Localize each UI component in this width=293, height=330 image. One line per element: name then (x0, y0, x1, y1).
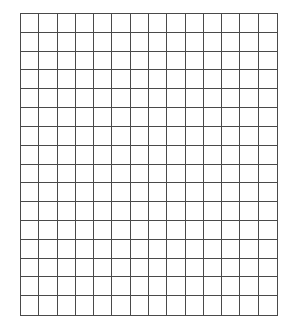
grid-cell (94, 127, 112, 146)
grid-cell (186, 240, 204, 259)
grid-cell (222, 14, 240, 33)
grid-cell (240, 221, 258, 240)
grid-cell (76, 240, 94, 259)
grid-cell (186, 146, 204, 165)
grid-cell (112, 259, 130, 278)
grid-cell (222, 70, 240, 89)
grid-cell (131, 89, 149, 108)
grid-cell (76, 127, 94, 146)
grid-cell (149, 108, 167, 127)
grid-cell (94, 221, 112, 240)
grid-cell (112, 146, 130, 165)
grid-cell (149, 14, 167, 33)
grid-cell (58, 240, 76, 259)
grid-cell (204, 277, 222, 296)
grid-cell (112, 108, 130, 127)
grid-cell (112, 240, 130, 259)
grid-cell (21, 146, 39, 165)
grid-cell (240, 277, 258, 296)
grid-cell (149, 296, 167, 315)
grid-cell (149, 127, 167, 146)
grid-cell (76, 146, 94, 165)
grid-cell (149, 146, 167, 165)
grid-cell (259, 277, 277, 296)
grid-cell (58, 70, 76, 89)
grid-cell (131, 221, 149, 240)
grid-cell (186, 259, 204, 278)
grid-cell (131, 146, 149, 165)
grid-cell (76, 296, 94, 315)
grid-cell (259, 108, 277, 127)
grid-cell (39, 127, 57, 146)
grid-cell (240, 183, 258, 202)
grid-cell (112, 183, 130, 202)
grid-cell (131, 33, 149, 52)
grid-cell (167, 296, 185, 315)
grid-cell (204, 127, 222, 146)
grid-cell (240, 108, 258, 127)
grid-cell (149, 52, 167, 71)
grid-cell (186, 89, 204, 108)
grid-cell (204, 240, 222, 259)
grid-cell (167, 259, 185, 278)
grid-cell (21, 14, 39, 33)
grid-cell (76, 14, 94, 33)
grid-cell (204, 296, 222, 315)
grid-cell (58, 259, 76, 278)
grid-cell (76, 165, 94, 184)
grid-cell (240, 127, 258, 146)
grid-cell (39, 70, 57, 89)
grid-cell (222, 202, 240, 221)
grid-cell (21, 52, 39, 71)
grid-cell (222, 165, 240, 184)
grid-cell (259, 146, 277, 165)
grid-cell (186, 221, 204, 240)
grid-cell (222, 259, 240, 278)
grid-cell (186, 127, 204, 146)
grid-cell (39, 52, 57, 71)
grid-cell (204, 259, 222, 278)
blank-grid (20, 13, 278, 316)
grid-cell (21, 89, 39, 108)
grid-cell (112, 165, 130, 184)
grid-cell (94, 14, 112, 33)
grid-cell (94, 108, 112, 127)
grid-cell (58, 127, 76, 146)
grid-cell (259, 89, 277, 108)
grid-cell (222, 89, 240, 108)
grid-cell (112, 33, 130, 52)
grid-cell (94, 296, 112, 315)
grid-cell (131, 277, 149, 296)
grid-cell (240, 240, 258, 259)
grid-cell (39, 240, 57, 259)
grid-cell (149, 70, 167, 89)
grid-cell (240, 33, 258, 52)
grid-cell (112, 127, 130, 146)
grid-cell (58, 202, 76, 221)
grid-cell (94, 183, 112, 202)
grid-cell (204, 165, 222, 184)
grid-cell (259, 221, 277, 240)
grid-cell (240, 14, 258, 33)
grid-cell (186, 108, 204, 127)
grid-cell (39, 183, 57, 202)
grid-cell (167, 183, 185, 202)
grid-cell (94, 165, 112, 184)
grid-cell (76, 202, 94, 221)
grid-cell (149, 240, 167, 259)
grid-cell (21, 221, 39, 240)
grid-cell (259, 165, 277, 184)
grid-cell (76, 52, 94, 71)
grid-cell (186, 296, 204, 315)
grid-cell (259, 33, 277, 52)
grid-cell (21, 127, 39, 146)
grid-cell (167, 202, 185, 221)
grid-cell (39, 165, 57, 184)
grid-cell (222, 52, 240, 71)
grid-cell (259, 14, 277, 33)
grid-cell (21, 183, 39, 202)
grid-cell (204, 146, 222, 165)
grid-cell (21, 296, 39, 315)
grid-cell (222, 183, 240, 202)
grid-cell (167, 52, 185, 71)
